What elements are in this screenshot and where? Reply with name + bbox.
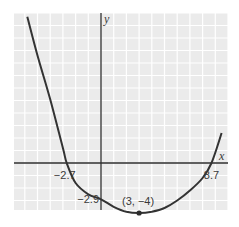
x-axis-label: x — [218, 149, 225, 163]
vertex-point — [137, 210, 142, 215]
annotation-x-intercept: 8.7 — [204, 169, 219, 181]
annotation-x-intercept: −2.7 — [54, 169, 76, 181]
grid-background — [14, 13, 228, 210]
chart: x y −2.78.7−2.9(3, −4) — [0, 0, 239, 227]
annotation-y-intercept: −2.9 — [77, 193, 99, 205]
grid — [14, 13, 228, 210]
annotation-vertex: (3, −4) — [122, 195, 154, 207]
y-axis-label: y — [103, 12, 110, 26]
